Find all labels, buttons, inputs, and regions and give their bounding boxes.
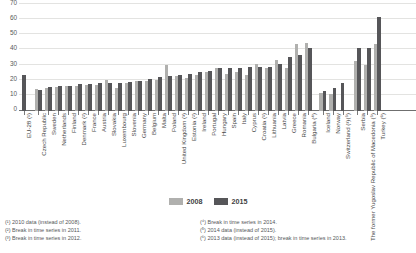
footnote: (⁵) 2014 data (instead of 2015). [200,226,414,234]
legend-label-2008: 2008 [187,198,203,205]
bar-group [303,3,313,111]
y-tick-60: 60 [0,15,17,21]
bar-2015 [68,86,71,111]
category-label: Switzerland (³)(⁵) [345,113,351,159]
bar-group [183,3,193,111]
bar-group [83,3,93,111]
category-label: Germany [141,113,147,138]
category-labels: EU-28 (¹)Czech RepublicSwedenNetherlands… [19,113,415,205]
y-axis-tick-labels: 706050403020100 [0,3,17,111]
bar-chart: 706050403020100 EU-28 (¹)Czech RepublicS… [0,0,416,253]
bar-2015 [158,77,161,111]
category-label: Latvia [281,113,287,129]
footnotes-left-column: (¹) 2010 data (instead of 2008).(²) Brea… [5,218,195,243]
category-label: Serbia [360,113,366,131]
bar-2015 [188,74,191,111]
category-label: Czech Republic [41,113,47,156]
footnote: (⁶) 2013 data (instead of 2015); break i… [200,234,414,242]
bar-2015 [248,67,251,111]
chart-legend: 20082015 [0,196,416,208]
footnote: (¹) 2010 data (instead of 2008). [5,218,195,226]
category-label: Ireland [201,113,207,132]
category-label: Netherlands [61,113,67,146]
bar-2015 [288,57,291,111]
category-label: Hungary [221,113,227,136]
bar-group [253,3,263,111]
bar-2015 [258,67,261,111]
y-tick-70: 70 [0,0,17,6]
category-label: EU-28 (¹) [26,113,32,138]
legend-item-2015: 2015 [214,198,248,205]
category-label: Turkey (⁶) [380,113,386,140]
bar-group [123,3,133,111]
category-label: Romania [301,113,307,137]
bar-group [143,3,153,111]
category-label: Spain [231,113,237,129]
bar-2015 [128,82,131,111]
bar-2015 [22,75,25,111]
category-label: Norway [335,113,341,134]
y-tick-30: 30 [0,61,17,67]
category-label: Sweden [51,113,57,135]
bar-2015 [58,86,61,111]
bar-2015 [118,83,121,111]
category-label: Luxembourg [121,113,127,147]
bar-2015 [268,67,271,111]
bar-group [63,3,73,111]
bar-group [173,3,183,111]
bar-group [73,3,83,111]
bar-group [53,3,63,111]
bar-group [223,3,233,111]
bar-group [263,3,273,111]
bar-2015 [208,71,211,111]
bar-2015 [323,91,326,111]
category-label: Belgium [151,113,157,135]
bar-2015 [98,83,101,111]
legend-swatch-2008 [169,198,183,205]
category-label: Lithuania [271,113,277,138]
bar-series-container [19,3,415,111]
bar-2015 [88,84,91,111]
category-label: Cyprus [251,113,257,132]
bar-group [153,3,163,111]
bar-2015 [148,79,151,111]
bar-2015 [108,83,111,111]
bar-2015 [278,64,281,111]
bar-2015 [178,75,181,111]
category-label: Poland [171,113,177,132]
bar-2015 [168,76,171,111]
bar-2015 [357,48,360,111]
bar-2015 [341,83,344,111]
footnotes-right-column: (⁴) Break in time series in 2014.(⁵) 201… [200,218,414,243]
bar-group [372,3,382,111]
category-label: Portugal [211,113,217,136]
category-label: Austria [101,113,107,132]
bar-group [213,3,223,111]
y-tick-50: 50 [0,30,17,36]
bar-group [362,3,372,111]
bar-2015 [228,68,231,111]
category-label: Slovakia [111,113,117,136]
plot-area: 706050403020100 [0,3,416,115]
category-label: France [91,113,97,132]
category-label: Iceland [325,113,331,133]
bar-group [113,3,123,111]
category-label: United Kingdom (³) [181,113,187,164]
category-label: Bulgaria (⁴) [311,113,317,144]
bar-group [318,3,328,111]
bar-group [43,3,53,111]
category-label: Italy [241,113,247,124]
footnote: (²) Break in time series in 2011. [5,226,195,234]
category-label: Croatia (¹) [261,113,267,140]
bar-2015 [308,48,311,111]
bar-group [283,3,293,111]
bar-group [352,3,362,111]
bar-2015 [38,90,41,111]
bar-group [338,3,348,111]
bar-group [163,3,173,111]
legend-label-2015: 2015 [232,198,248,205]
bar-2015 [78,84,81,111]
bar-2015 [198,72,201,111]
bar-group [273,3,283,111]
category-label: Malta [161,113,167,128]
